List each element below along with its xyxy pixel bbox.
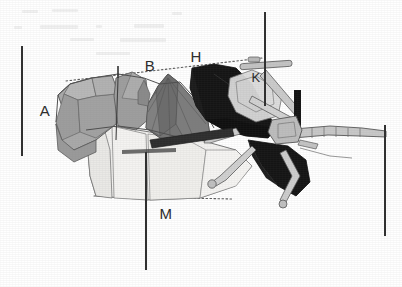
label-b: B: [145, 57, 155, 74]
label-h: H: [190, 48, 201, 65]
label-a: A: [40, 102, 50, 119]
label-k: K: [251, 70, 260, 85]
figure-root: A I B H K M: [0, 0, 402, 287]
label-m: M: [160, 205, 173, 222]
technical-illustration: A I B H K M: [0, 0, 402, 287]
